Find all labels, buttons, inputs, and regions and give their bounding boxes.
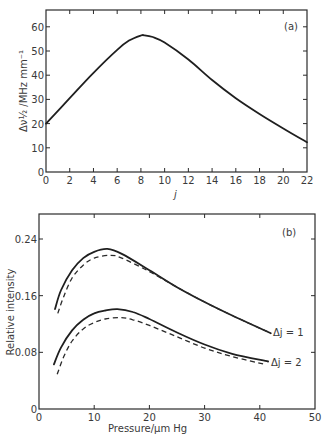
x-tick-label: 10 bbox=[88, 412, 101, 423]
chart-b: 0102030405000.080.160.24 (b) Δj = 1 Δj =… bbox=[5, 214, 321, 434]
x-tick-label: 20 bbox=[277, 175, 290, 186]
y-tick-label: 0 bbox=[31, 404, 37, 415]
series-solid-line bbox=[46, 35, 307, 142]
chart-a-panel-label: (a) bbox=[284, 21, 298, 32]
chart-a-frame bbox=[46, 10, 307, 172]
x-tick-label: 6 bbox=[114, 175, 120, 186]
chart-b-frame bbox=[39, 214, 315, 409]
x-tick-label: 50 bbox=[309, 412, 322, 423]
y-tick-label: 40 bbox=[31, 70, 44, 81]
x-tick-label: 18 bbox=[253, 175, 266, 186]
chart-a: 02468101214161820220102030405060 (a) j Δ… bbox=[18, 10, 313, 200]
chart-a-ylabel: Δν½ /MHz mm⁻¹ bbox=[18, 50, 29, 132]
figure: 02468101214161820220102030405060 (a) j Δ… bbox=[0, 0, 326, 439]
x-tick-label: 12 bbox=[182, 175, 195, 186]
chart-b-series bbox=[54, 249, 271, 374]
x-tick-label: 10 bbox=[158, 175, 171, 186]
x-tick-label: 30 bbox=[198, 412, 211, 423]
y-tick-label: 10 bbox=[31, 143, 44, 154]
y-tick-label: 50 bbox=[31, 46, 44, 57]
x-tick-label: 2 bbox=[67, 175, 73, 186]
x-tick-label: 22 bbox=[301, 175, 314, 186]
chart-b-panel-label: (b) bbox=[282, 227, 296, 238]
x-tick-label: 16 bbox=[229, 175, 242, 186]
y-tick-label: 0.08 bbox=[15, 347, 37, 358]
y-tick-label: 60 bbox=[31, 22, 44, 33]
x-tick-label: 20 bbox=[143, 412, 156, 423]
x-tick-label: 8 bbox=[138, 175, 144, 186]
chart-b-xlabel: Pressure/μm Hg bbox=[108, 423, 187, 434]
y-tick-label: 0 bbox=[38, 167, 44, 178]
x-tick-label: 4 bbox=[90, 175, 96, 186]
chart-b-ticks: 0102030405000.080.160.24 bbox=[15, 214, 322, 423]
series-dashed-line bbox=[58, 255, 271, 333]
y-tick-label: 0.24 bbox=[15, 234, 37, 245]
chart-b-annotation-dj2: Δj = 2 bbox=[271, 357, 302, 368]
x-tick-label: 40 bbox=[253, 412, 266, 423]
chart-a-ticks: 02468101214161820220102030405060 bbox=[31, 10, 313, 186]
y-tick-label: 0.16 bbox=[15, 291, 37, 302]
chart-a-series bbox=[46, 35, 307, 142]
chart-b-ylabel: Relative intensity bbox=[5, 268, 16, 355]
y-tick-label: 20 bbox=[31, 119, 44, 130]
chart-a-xlabel: j bbox=[172, 189, 177, 200]
chart-b-annotation-dj1: Δj = 1 bbox=[273, 327, 304, 338]
series-dashed-line bbox=[57, 318, 265, 375]
x-tick-label: 14 bbox=[206, 175, 219, 186]
y-tick-label: 30 bbox=[31, 94, 44, 105]
